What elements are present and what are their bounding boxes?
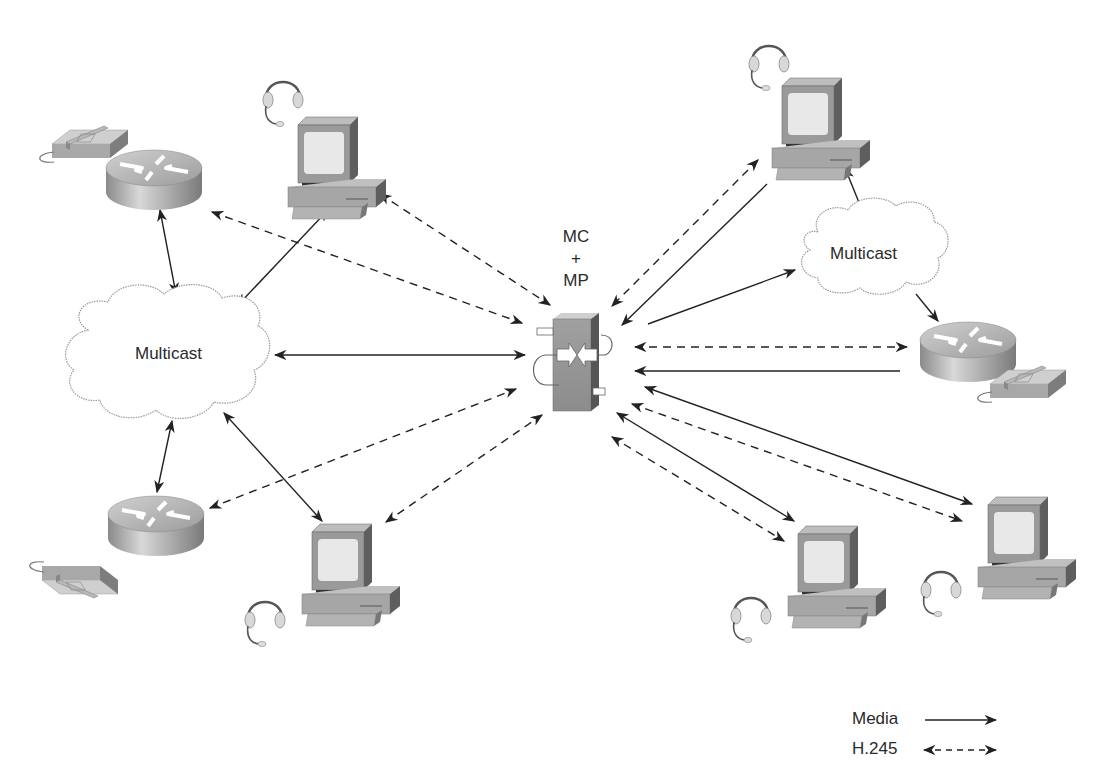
media-line-router-tl-cloud: [160, 210, 176, 294]
legend-media-label: Media: [852, 709, 898, 729]
legend-h245-label: H.245: [852, 739, 897, 759]
pc-top-right: [749, 46, 870, 180]
media-line-pc-tl-cloud: [238, 210, 328, 305]
pc-bottom-right: [921, 497, 1076, 617]
figure-caption: [0, 0, 1112, 4]
mcmp-label-line-3: MP: [546, 270, 606, 292]
media-line-mcmp-pc-bmr: [617, 413, 794, 521]
router-phone-right: [920, 322, 1066, 402]
pc-top-left: [263, 82, 386, 219]
media-line-cloud-r-router-r: [916, 294, 938, 321]
router-phone-bottom-left: [30, 496, 204, 598]
mcmp-label: MC + MP: [546, 226, 606, 292]
media-line-mcmp-pc-br: [645, 387, 972, 504]
network-diagram: [0, 0, 1112, 784]
mcmp-label-line-2: +: [546, 248, 606, 270]
cloud-left-label: Multicast: [135, 344, 202, 364]
h245-line-mcmp-pc-br: [632, 404, 962, 521]
h245-line-pc-tr-mcmp: [612, 160, 758, 306]
cloud-right-label: Multicast: [830, 244, 897, 264]
h245-line-router-tl-mcmp: [212, 212, 522, 323]
router-phone-top-left: [40, 126, 202, 210]
h245-line-mcmp-pc-bmr: [612, 437, 784, 541]
media-line-cloud-pc-bl: [224, 413, 322, 521]
media-line-pc-tr-mcmp: [622, 184, 767, 325]
mcmp-device: [534, 313, 613, 411]
media-line-cloud-router-bl: [157, 421, 172, 492]
mcmp-label-line-1: MC: [546, 226, 606, 248]
legend-symbols: [924, 720, 996, 750]
pc-bottom-mid-right: [731, 526, 886, 643]
pc-bottom-left: [245, 524, 400, 647]
h245-line-pc-tl-mcmp: [380, 194, 550, 305]
diagram-canvas: Multicast Multicast MC + MP Media H.245: [0, 0, 1112, 784]
